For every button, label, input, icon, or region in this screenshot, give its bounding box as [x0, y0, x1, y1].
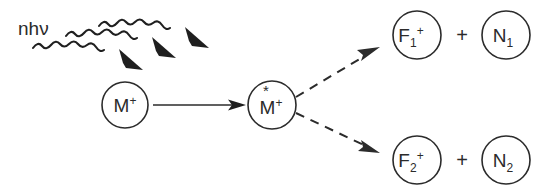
node-neutral-bottom: N2 — [482, 136, 530, 184]
node-fragment-bottom: F2+ — [393, 136, 441, 184]
photon-wavy-arrows-group — [33, 20, 209, 71]
plus-operator-top: + — [456, 24, 468, 46]
node-fragment-top: F1+ — [393, 11, 441, 59]
photon-wave-1-icon — [33, 42, 143, 71]
photon-label: nhν — [18, 18, 49, 39]
channel-top-arrow-dashed — [296, 47, 380, 97]
node-excited-ion: * M+ — [248, 81, 296, 129]
excitation-arrow-solid — [153, 100, 246, 111]
plus-operator-bottom: + — [456, 149, 468, 171]
node-neutral-top: N1 — [482, 11, 530, 59]
node-parent-ion: M+ — [102, 82, 148, 128]
channel-bottom-arrow-dashed — [296, 113, 380, 153]
photodissociation-diagram: M+ * M+ F1+ + N1 — [0, 0, 542, 190]
